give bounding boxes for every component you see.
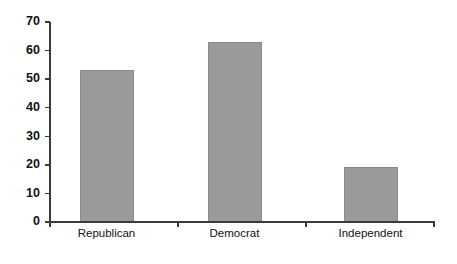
x-axis-label-democrat: Democrat [210, 227, 261, 239]
bar-democrat [208, 42, 261, 222]
x-axis-label-republican: Republican [78, 227, 136, 239]
chart-canvas: 010203040506070 RepublicanDemocratIndepe… [0, 0, 457, 264]
x-axis-labels: RepublicanDemocratIndependent [78, 227, 404, 239]
y-tick-label-40: 40 [26, 100, 40, 114]
y-tick-label-60: 60 [26, 43, 40, 57]
y-tick-label-0: 0 [33, 214, 40, 228]
y-tick-label-20: 20 [26, 157, 40, 171]
y-tick-label-70: 70 [26, 14, 40, 28]
x-axis-label-independent: Independent [339, 227, 404, 239]
bar-chart: 010203040506070 RepublicanDemocratIndepe… [0, 0, 457, 264]
bar-republican [80, 71, 133, 222]
y-tick-label-50: 50 [26, 71, 40, 85]
y-tick-label-30: 30 [26, 129, 40, 143]
y-tick-label-10: 10 [26, 186, 40, 200]
bar-independent [344, 168, 397, 222]
